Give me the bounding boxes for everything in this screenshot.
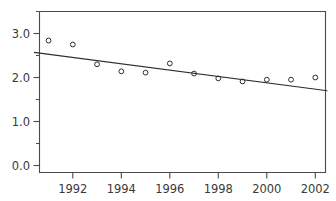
scatter-plot-svg: 3.0 2.0 1.0 0.0 1992 1994 1996 1998 2000…	[0, 0, 336, 201]
y-axis-label-0-0: 0.0	[12, 159, 30, 173]
x-axis-label-1992: 1992	[58, 182, 87, 196]
data-point-group	[46, 38, 318, 84]
data-point	[264, 77, 269, 82]
data-point	[167, 61, 172, 66]
data-point	[95, 62, 100, 67]
x-axis-label-2002: 2002	[301, 182, 330, 196]
chart-container: 3.0 2.0 1.0 0.0 1992 1994 1996 1998 2000…	[0, 0, 336, 201]
y-axis-label-2-0: 2.0	[12, 71, 30, 85]
x-axis-label-1996: 1996	[155, 182, 184, 196]
x-axis-ticks	[73, 173, 315, 179]
x-axis-label-2000: 2000	[252, 182, 281, 196]
x-axis-label-1998: 1998	[204, 182, 233, 196]
data-point	[119, 69, 124, 74]
plot-frame	[40, 12, 326, 173]
y-axis-label-3-0: 3.0	[12, 27, 30, 41]
data-point	[70, 42, 75, 47]
y-axis-label-1-0: 1.0	[12, 115, 30, 129]
trend-line	[34, 52, 327, 90]
data-point	[46, 38, 51, 43]
data-point	[289, 77, 294, 82]
data-point	[313, 75, 318, 80]
data-point	[143, 70, 148, 75]
x-axis-label-1994: 1994	[107, 182, 136, 196]
